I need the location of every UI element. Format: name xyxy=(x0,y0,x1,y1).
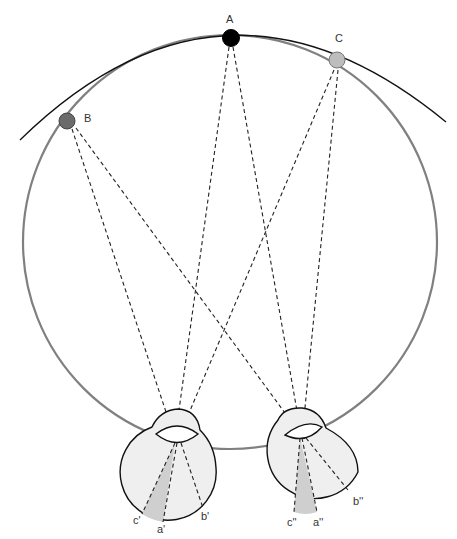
label-a-double-prime: a'' xyxy=(313,516,323,528)
label-a-prime: a' xyxy=(157,523,165,535)
label-B: B xyxy=(84,112,91,124)
label-A: A xyxy=(226,13,234,25)
point-C xyxy=(329,52,345,68)
label-c-double-prime: c'' xyxy=(287,516,297,528)
horopter-arc xyxy=(20,35,446,140)
point-B xyxy=(59,113,75,129)
right-eye xyxy=(267,408,358,514)
label-C: C xyxy=(335,32,343,44)
label-c-prime: c' xyxy=(133,514,141,526)
ray-C-right-eye xyxy=(303,70,338,428)
ray-A-left-eye xyxy=(176,47,229,432)
ray-B-right-eye xyxy=(76,128,296,428)
horopter-diagram: A B C c' a' b' c'' a'' b'' xyxy=(0,0,457,539)
visual-rays xyxy=(72,47,338,432)
ray-A-right-eye xyxy=(233,47,300,428)
ray-C-left-eye xyxy=(181,70,334,432)
label-b-double-prime: b'' xyxy=(353,495,363,507)
right-eye-globe xyxy=(267,408,358,499)
label-b-prime: b' xyxy=(201,510,209,522)
point-A xyxy=(223,30,240,47)
vieth-muller-circle xyxy=(23,35,437,449)
ray-B-left-eye xyxy=(72,129,172,430)
